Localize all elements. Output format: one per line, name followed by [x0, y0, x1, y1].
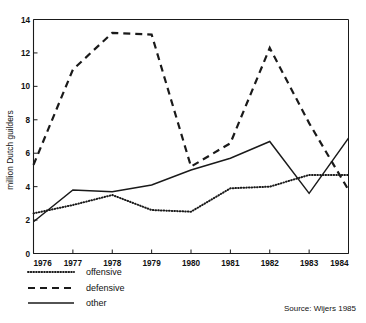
y-tick-label: 6: [25, 149, 30, 158]
y-axis-ticks: 02468101214: [21, 16, 38, 259]
y-tick-label: 10: [21, 82, 31, 91]
x-tick-label: 1981: [221, 259, 240, 268]
legend: offensive defensive other: [28, 267, 125, 308]
y-tick-label: 12: [21, 49, 31, 58]
legend-item-other: other: [28, 298, 107, 308]
x-tick-label: 1984: [330, 259, 349, 268]
chart-figure: 02468101214 1976197719781979198019811982…: [0, 0, 366, 323]
plot-frame: [34, 20, 349, 254]
line-chart: 02468101214 1976197719781979198019811982…: [0, 0, 366, 323]
series-line-offensive: [34, 175, 349, 213]
source-note: Source: Wijers 1985: [284, 304, 357, 313]
y-axis-title: million Dutch guilders: [5, 110, 15, 190]
x-tick-label: 1983: [300, 259, 319, 268]
data-series-group: [34, 33, 349, 222]
legend-label-other: other: [86, 298, 107, 308]
x-tick-label: 1982: [261, 259, 280, 268]
y-tick-label: 4: [25, 183, 30, 192]
legend-item-offensive: offensive: [28, 267, 122, 277]
x-tick-label: 1976: [34, 259, 53, 268]
x-tick-label: 1977: [64, 259, 83, 268]
y-tick-label: 14: [21, 16, 31, 25]
legend-label-offensive: offensive: [86, 267, 122, 277]
series-line-defensive: [34, 33, 349, 190]
y-tick-label: 2: [25, 216, 30, 225]
y-tick-label: 8: [25, 116, 30, 125]
y-tick-label: 0: [25, 250, 30, 259]
x-tick-label: 1980: [182, 259, 201, 268]
series-line-other: [34, 138, 349, 222]
x-tick-label: 1979: [143, 259, 162, 268]
legend-label-defensive: defensive: [86, 283, 125, 293]
x-axis-ticks: 197619771978197919801981198219831984: [34, 250, 349, 268]
legend-item-defensive: defensive: [28, 283, 125, 293]
